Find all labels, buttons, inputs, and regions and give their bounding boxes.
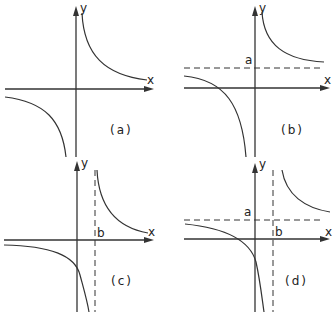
x-label: x (324, 73, 331, 87)
x-label: x (147, 73, 154, 87)
asymptote-label-b: b (97, 226, 105, 240)
curve-lower (5, 97, 66, 157)
panel-caption: (c) (111, 274, 133, 288)
panel-a: x y (a) (5, 1, 154, 157)
y-arrow-icon (73, 6, 79, 16)
y-label: y (81, 156, 88, 170)
panel-d: x y a b (d) (184, 157, 332, 312)
asymptote-label-a: a (245, 53, 252, 67)
y-arrow-icon (74, 161, 80, 171)
y-arrow-icon (252, 6, 258, 16)
curve-lower (185, 224, 264, 312)
curve-upper (97, 170, 148, 233)
panel-caption: (a) (110, 123, 133, 137)
y-arrow-icon (252, 163, 258, 173)
x-label: x (148, 225, 155, 239)
curve-upper (82, 13, 147, 80)
y-label: y (259, 157, 266, 171)
hyperbola-figure: x y (a) x y a (b) x y b (c) (0, 0, 334, 317)
panel-caption: (d) (285, 274, 308, 288)
curve-upper (262, 12, 324, 62)
asymptote-label-a: a (244, 205, 251, 219)
y-label: y (80, 1, 87, 15)
asymptote-label-b: b (275, 225, 283, 239)
curve-lower (4, 245, 89, 312)
x-label: x (325, 225, 332, 239)
panel-c: x y b (c) (4, 156, 155, 312)
panel-caption: (b) (281, 123, 304, 137)
panel-b: x y a (b) (184, 1, 331, 157)
curve-upper (282, 170, 330, 212)
